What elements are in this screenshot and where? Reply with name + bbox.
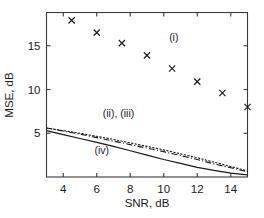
mse-vs-snr-chart: 468101214 51015 (i)(ii), (iii)(iv) SNR, …	[0, 0, 264, 218]
series-i-x-markers	[69, 17, 251, 110]
data-point-marker	[194, 79, 200, 85]
data-point-marker	[219, 90, 225, 96]
inline-series-annotations: (i)(ii), (iii)(iv)	[94, 31, 178, 157]
data-point-marker	[144, 52, 150, 58]
x-tick-label: 12	[191, 183, 204, 195]
x-tick-label: 8	[127, 183, 133, 195]
plot-frame	[47, 13, 248, 178]
x-tick-label: 4	[60, 183, 67, 195]
curve-path	[47, 131, 248, 175]
y-tick-label: 15	[28, 40, 41, 52]
y-tick-label: 10	[28, 84, 41, 96]
curve-path	[47, 128, 248, 172]
y-tick-label: 5	[34, 127, 40, 139]
series-annotation-label: (iv)	[94, 144, 109, 156]
x-tick-label: 6	[94, 183, 100, 195]
x-axis-tick-labels: 468101214	[60, 183, 238, 195]
x-axis-ticks	[63, 13, 231, 178]
data-point-marker	[94, 30, 100, 36]
x-tick-label: 10	[157, 183, 170, 195]
data-point-marker	[69, 17, 75, 23]
series-annotation-label: (ii), (iii)	[103, 107, 135, 119]
figure-container: 468101214 51015 (i)(ii), (iii)(iv) SNR, …	[0, 0, 264, 218]
data-point-marker	[119, 40, 125, 46]
series-iii-dashdot-curve	[47, 128, 248, 172]
series-iv-solid-curve	[47, 131, 248, 175]
data-point-marker	[169, 65, 175, 71]
y-axis-tick-labels: 51015	[28, 40, 41, 140]
series-annotation-label: (i)	[169, 31, 178, 43]
x-tick-label: 14	[224, 183, 237, 195]
y-axis-title: MSE, dB	[3, 72, 15, 118]
x-axis-title: SNR, dB	[125, 197, 170, 209]
y-axis-ticks	[47, 46, 248, 134]
